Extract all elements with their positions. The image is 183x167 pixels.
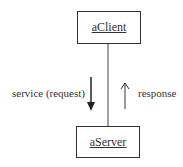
object-label: aClient <box>92 20 127 35</box>
object-aserver: aServer <box>76 126 140 158</box>
message-response-label: response <box>138 87 177 99</box>
message-request-label: service (request) <box>12 87 85 99</box>
object-aclient: aClient <box>77 11 141 44</box>
arrow-down-icon <box>87 77 95 111</box>
arrow-up-icon <box>121 83 129 109</box>
object-label: aServer <box>90 135 127 150</box>
